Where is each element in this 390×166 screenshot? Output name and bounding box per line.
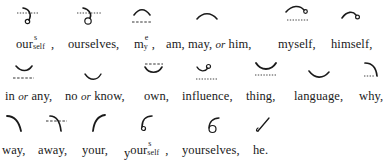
am-may-him-outline-icon xyxy=(195,10,221,24)
word-ourself: oursself, xyxy=(16,37,54,51)
influence-outline-icon xyxy=(195,62,221,84)
word-language: language, xyxy=(294,89,343,103)
ourselves-outline-icon xyxy=(77,6,103,26)
word-am-may-him: am, may, or him, xyxy=(166,37,252,51)
word-variants: ey xyxy=(144,37,152,51)
yourself-outline-icon xyxy=(138,114,156,136)
in-any-outline-icon xyxy=(12,63,38,83)
sub-text: self xyxy=(147,146,159,160)
word-text: language, xyxy=(294,89,343,103)
yourselves-outline-icon xyxy=(206,116,224,136)
shorthand-page: oursself, ourselves, mey, am, may, or hi… xyxy=(0,0,390,166)
word-thing: thing, xyxy=(246,89,275,103)
word-your: your, xyxy=(82,143,108,157)
myself-outline-icon xyxy=(282,4,314,24)
conj-text: or xyxy=(215,38,225,50)
word-me-my: mey, xyxy=(134,37,155,51)
word-yourself: yoursself, xyxy=(124,143,169,157)
thing-outline-icon xyxy=(253,61,281,81)
word-text: he. xyxy=(253,143,268,157)
conj-text: or xyxy=(18,90,28,102)
word-yourselves: yourselves, xyxy=(182,143,240,157)
language-outline-icon xyxy=(307,69,333,83)
away-outline-icon xyxy=(46,113,70,135)
himself-outline-icon xyxy=(340,8,368,24)
word-variants: sself xyxy=(33,37,45,51)
word-away: away, xyxy=(38,143,67,157)
why-outline-icon xyxy=(362,61,388,83)
word-in-any: in or any, xyxy=(5,89,52,103)
word-text: away, xyxy=(38,143,67,157)
word-ourselves: ourselves, xyxy=(68,37,119,51)
word-text: way, xyxy=(2,143,26,157)
word-myself: myself, xyxy=(278,37,316,51)
word-text: himself, xyxy=(331,37,372,51)
word-no-know: no or know, xyxy=(65,89,125,103)
word-text: why, xyxy=(359,89,383,103)
word-text: myself, xyxy=(278,37,316,51)
way-outline-icon xyxy=(5,113,27,135)
word-text: ourselves, xyxy=(68,37,119,51)
word-text: him, xyxy=(229,37,252,51)
no-know-outline-icon xyxy=(83,72,107,84)
own-outline-icon xyxy=(143,61,167,77)
me-my-outline-icon xyxy=(130,6,156,26)
he-outline-icon xyxy=(253,116,275,136)
word-text: m xyxy=(134,37,144,51)
conj-text: or xyxy=(81,90,91,102)
word-influence: influence, xyxy=(182,89,233,103)
word-text: your, xyxy=(82,143,108,157)
word-text: our xyxy=(130,143,147,157)
word-text: am, may, xyxy=(166,37,212,51)
word-why: why, xyxy=(359,89,383,103)
word-own: own, xyxy=(144,89,169,103)
word-way: way, xyxy=(2,143,26,157)
word-text: our xyxy=(16,37,33,51)
word-variants: sself xyxy=(147,143,159,157)
sub-text: y xyxy=(144,40,148,54)
punct-text: , xyxy=(152,37,155,51)
prefix-text: y xyxy=(124,146,130,160)
word-text: in xyxy=(5,89,15,103)
word-himself: himself, xyxy=(331,37,372,51)
word-text: yourselves, xyxy=(182,143,240,157)
sub-text: self xyxy=(33,40,45,54)
word-text: influence, xyxy=(182,89,233,103)
punct-text: , xyxy=(51,37,54,51)
word-text: thing, xyxy=(246,89,275,103)
word-text: know, xyxy=(94,89,125,103)
word-text: any, xyxy=(31,89,52,103)
word-text: own, xyxy=(144,89,169,103)
your-outline-icon xyxy=(90,113,110,135)
word-text: no xyxy=(65,89,78,103)
word-he: he. xyxy=(253,143,268,157)
punct-text: , xyxy=(165,143,168,157)
ourself-outline-icon xyxy=(17,6,43,26)
